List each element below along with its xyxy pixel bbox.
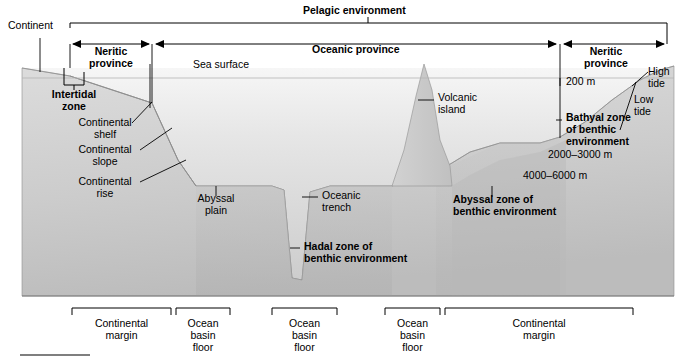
abyssal-zone-label: Abyssal zone of benthic environment bbox=[453, 194, 556, 218]
bathyal-zone-label: Bathyal zone of benthic environment bbox=[566, 112, 631, 147]
hadal-zone-label: Hadal zone of benthic environment bbox=[304, 241, 407, 265]
bottom-bracket-label: Ocean basin floor bbox=[255, 318, 355, 353]
oceanic-trench-label: Oceanic trench bbox=[322, 190, 361, 214]
pelagic-bracket bbox=[70, 17, 667, 44]
pelagic-environment-label: Pelagic environment bbox=[303, 5, 406, 17]
neritic-province-right-label: Neritic province bbox=[571, 46, 641, 70]
intertidal-zone-label: Intertidal zone bbox=[33, 89, 115, 113]
ocean-environments-diagram: Pelagic environment Continent Neritic pr… bbox=[0, 0, 695, 361]
bottom-bracket bbox=[272, 308, 337, 315]
oceanic-province-label: Oceanic province bbox=[312, 44, 400, 56]
low-tide-label: Low tide bbox=[634, 94, 653, 118]
neritic-province-left-label: Neritic province bbox=[76, 46, 146, 70]
shelf-break-depth-label: 200 m bbox=[566, 76, 595, 88]
continental-rise-label: Continental rise bbox=[69, 176, 141, 200]
sea-surface-label: Sea surface bbox=[193, 59, 249, 71]
continental-slope-label: Continental slope bbox=[69, 144, 141, 168]
abyssal-depth-range-label: 4000–6000 m bbox=[523, 170, 587, 182]
continental-shelf-label: Continental shelf bbox=[69, 117, 141, 141]
bottom-bracket-label: Continental margin bbox=[489, 318, 589, 342]
bottom-bracket bbox=[72, 308, 171, 315]
bottom-bracket bbox=[385, 308, 440, 315]
volcanic-island-label: Volcanic island bbox=[438, 92, 477, 116]
bathyal-depth-range-label: 2000–3000 m bbox=[548, 149, 612, 161]
bottom-bracket bbox=[176, 308, 230, 315]
high-tide-label: High tide bbox=[648, 66, 670, 90]
continent-label: Continent bbox=[8, 20, 53, 32]
abyssal-plain-label: Abyssal plain bbox=[183, 193, 249, 217]
bottom-bracket bbox=[445, 308, 633, 315]
bottom-bracket-label: Ocean basin floor bbox=[363, 318, 463, 353]
bottom-bracket-group bbox=[72, 308, 633, 315]
bottom-bracket-label: Ocean basin floor bbox=[153, 318, 253, 353]
